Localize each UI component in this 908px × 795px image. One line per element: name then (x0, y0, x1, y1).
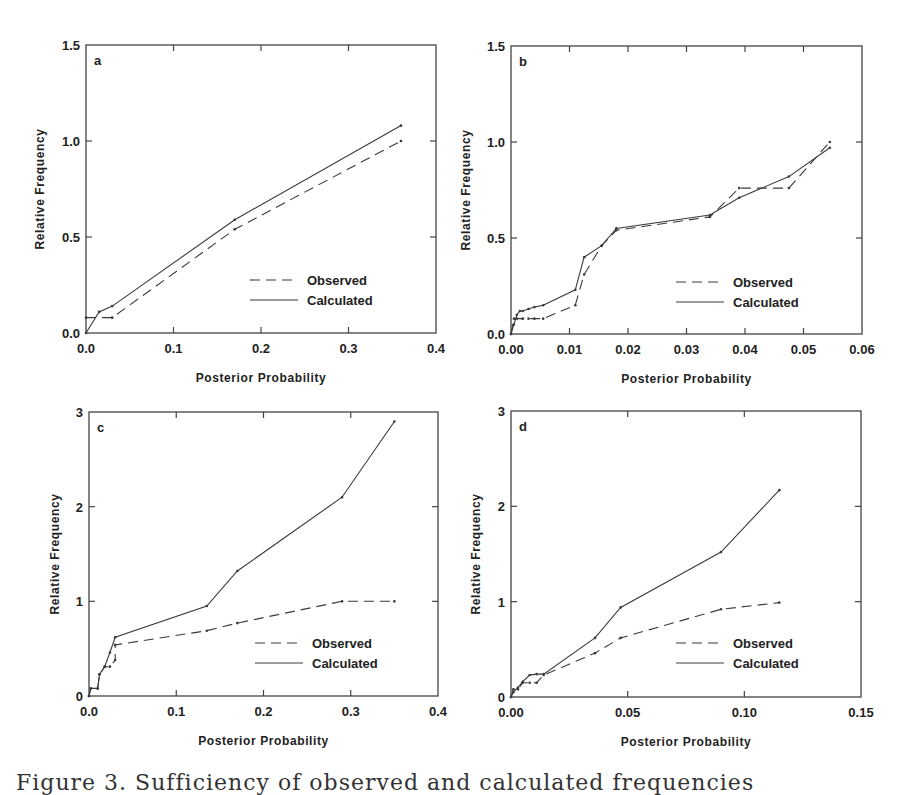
legend-calculated-label: Calculated (312, 656, 378, 671)
data-point (236, 622, 239, 625)
calculated-line (89, 422, 394, 697)
data-point (778, 489, 781, 492)
data-point (393, 420, 396, 423)
chart-panel-c: 0.00.10.20.30.40123cPosterior Probabilit… (0, 393, 454, 786)
x-tick-label: 0.4 (427, 341, 446, 356)
x-axis-title: Posterior Probability (196, 371, 327, 385)
data-point (98, 673, 101, 676)
data-point (96, 687, 99, 690)
legend-calculated-label: Calculated (733, 656, 799, 671)
y-tick-label: 0 (498, 690, 505, 705)
data-point (574, 289, 577, 292)
data-point (738, 196, 741, 199)
data-point (619, 606, 622, 609)
legend-observed-label: Observed (733, 275, 793, 290)
data-point (533, 317, 536, 320)
data-point (513, 317, 516, 320)
data-point (85, 332, 88, 335)
data-point (583, 256, 586, 259)
x-tick-label: 0.0 (77, 341, 95, 356)
x-tick-label: 0.06 (849, 342, 874, 357)
data-point (393, 600, 396, 603)
x-tick-label: 0.1 (164, 341, 182, 356)
data-point (778, 601, 781, 604)
plot-frame (511, 46, 862, 334)
data-point (400, 124, 403, 127)
y-tick-label: 0.0 (62, 326, 80, 341)
data-point (88, 695, 91, 698)
data-point (542, 317, 545, 320)
data-point (236, 570, 239, 573)
y-axis-title: Relative Frequency (33, 129, 47, 250)
chart-panel-b: 0.000.010.020.030.040.050.060.00.51.01.5… (454, 0, 908, 393)
chart-legend: ObservedCalculated (676, 636, 799, 671)
y-axis-title: Relative Frequency (469, 494, 483, 615)
data-point (594, 637, 597, 640)
data-point (111, 316, 114, 319)
data-point (619, 637, 622, 640)
legend-observed-label: Observed (307, 273, 367, 288)
plot-frame (89, 412, 438, 696)
y-tick-label: 1.5 (62, 38, 80, 53)
data-point (542, 673, 545, 676)
data-point (513, 323, 516, 326)
x-tick-label: 0.05 (791, 342, 816, 357)
data-point (114, 659, 117, 662)
plot-frame (86, 45, 436, 333)
data-point (535, 681, 538, 684)
x-tick-label: 0.3 (342, 704, 360, 719)
data-point (512, 688, 515, 691)
data-point (111, 305, 114, 308)
data-point (205, 629, 208, 632)
legend-calculated-label: Calculated (733, 295, 799, 310)
data-point (533, 306, 536, 309)
chart-a-svg: 0.00.10.20.30.40.00.51.01.5aPosterior Pr… (0, 0, 454, 393)
y-tick-label: 0.0 (487, 327, 505, 342)
data-point (109, 665, 112, 668)
data-point (788, 187, 791, 190)
data-point (109, 651, 112, 654)
x-tick-label: 0.15 (848, 705, 873, 720)
figure-caption: Figure 3. Sufficiency of observed and ca… (16, 770, 754, 795)
x-tick-label: 0.04 (732, 342, 758, 357)
data-point (205, 605, 208, 608)
data-point (720, 608, 723, 611)
data-point (512, 691, 515, 694)
x-tick-label: 0.10 (732, 705, 757, 720)
x-tick-label: 0.03 (674, 342, 699, 357)
x-tick-label: 0.4 (429, 704, 448, 719)
data-point (615, 227, 618, 230)
y-tick-label: 2 (498, 499, 505, 514)
chart-b-svg: 0.000.010.020.030.040.050.060.00.51.01.5… (454, 0, 908, 393)
y-tick-label: 1.0 (62, 134, 80, 149)
x-tick-label: 0.00 (498, 342, 523, 357)
data-point (528, 674, 531, 677)
y-tick-label: 1 (76, 594, 83, 609)
data-point (709, 214, 712, 217)
panel-label: a (94, 53, 102, 68)
data-point (788, 175, 791, 178)
y-tick-label: 1.0 (487, 135, 505, 150)
x-tick-label: 0.02 (615, 342, 640, 357)
data-point (89, 687, 92, 690)
x-tick-label: 0.3 (339, 341, 357, 356)
data-point (738, 187, 741, 190)
chart-legend: ObservedCalculated (250, 273, 373, 308)
data-point (341, 600, 344, 603)
data-point (341, 496, 344, 499)
y-tick-label: 2 (76, 500, 83, 515)
data-point (829, 146, 832, 149)
y-tick-label: 0.5 (62, 230, 80, 245)
x-tick-label: 0.05 (615, 705, 640, 720)
x-tick-label: 0.2 (254, 704, 272, 719)
data-point (103, 665, 106, 668)
data-point (85, 316, 88, 319)
y-axis-title: Relative Frequency (459, 130, 473, 251)
data-point (521, 310, 524, 313)
data-point (528, 681, 531, 684)
legend-observed-label: Observed (312, 636, 372, 651)
x-tick-label: 0.0 (80, 704, 98, 719)
data-point (233, 218, 236, 221)
data-point (535, 673, 538, 676)
legend-calculated-label: Calculated (307, 293, 373, 308)
